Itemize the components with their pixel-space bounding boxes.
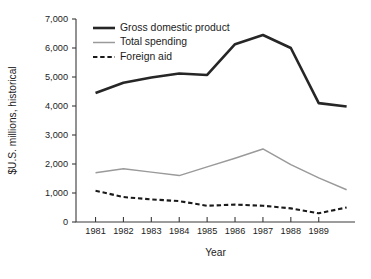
legend-label: Gross domestic product <box>120 22 230 33</box>
series-line <box>96 149 347 190</box>
y-tick-label: 0 <box>63 217 68 227</box>
y-tick-label: 4,000 <box>45 101 68 111</box>
x-tick-label: 1984 <box>169 226 189 236</box>
y-tick-label: 7,000 <box>45 14 68 24</box>
axes-group: 01,0002,0003,0004,0005,0006,0007,000 198… <box>45 14 355 236</box>
x-tick-label: 1989 <box>309 226 329 236</box>
x-axis-ticks: 198119821983198419851986198719881989 <box>85 217 329 236</box>
x-tick-label: 1982 <box>113 226 133 236</box>
y-tick-label: 6,000 <box>45 43 68 53</box>
line-chart: 01,0002,0003,0004,0005,0006,0007,000 198… <box>0 0 371 279</box>
y-tick-label: 3,000 <box>45 130 68 140</box>
y-axis-title: $U.S. millions, historical <box>7 66 18 174</box>
x-tick-label: 1981 <box>85 226 105 236</box>
x-tick-label: 1986 <box>225 226 245 236</box>
y-tick-label: 1,000 <box>45 188 68 198</box>
chart-container: 01,0002,0003,0004,0005,0006,0007,000 198… <box>0 0 371 279</box>
x-tick-label: 1988 <box>281 226 301 236</box>
legend-label: Foreign aid <box>120 51 172 62</box>
chart-legend: Gross domestic productTotal spendingFore… <box>93 22 230 62</box>
legend-label: Total spending <box>120 36 187 47</box>
x-tick-label: 1987 <box>253 226 273 236</box>
x-axis-title: Year <box>205 247 226 258</box>
y-axis-ticks: 01,0002,0003,0004,0005,0006,0007,000 <box>45 14 76 227</box>
y-tick-label: 2,000 <box>45 159 68 169</box>
x-tick-label: 1983 <box>141 226 161 236</box>
series-line <box>96 191 347 214</box>
axis-lines <box>76 19 355 222</box>
y-tick-label: 5,000 <box>45 72 68 82</box>
x-tick-label: 1985 <box>197 226 217 236</box>
